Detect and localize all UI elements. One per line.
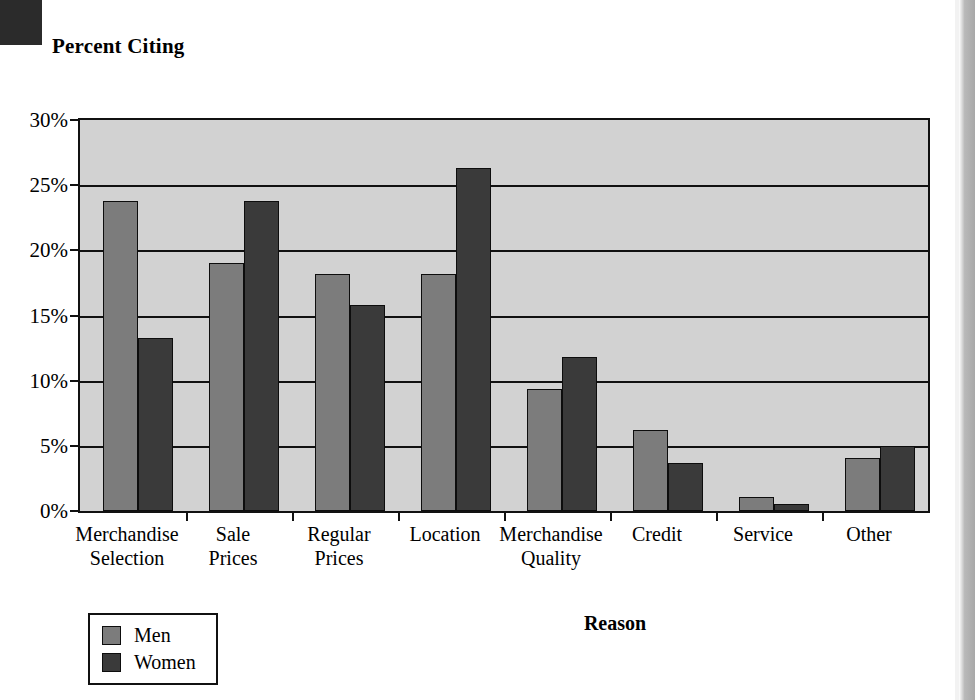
x-tick-label: RegularPrices	[307, 523, 370, 570]
x-tick-label: MerchandiseQuality	[499, 523, 602, 570]
y-tick-label: 20%	[30, 238, 69, 263]
y-tick-mark	[70, 510, 80, 512]
x-label-line: Prices	[209, 547, 258, 571]
bar-men-6	[633, 430, 668, 511]
bar-men-7	[739, 497, 774, 511]
x-tick-label: Location	[409, 523, 480, 547]
bars-layer	[80, 120, 928, 511]
y-tick-mark	[70, 315, 80, 317]
bar-women-3	[350, 305, 385, 511]
chart-legend: MenWomen	[88, 613, 218, 685]
x-tick-label: MerchandiseSelection	[75, 523, 178, 570]
x-tick-mark	[292, 511, 294, 521]
bar-men-3	[315, 274, 350, 511]
legend-swatch-icon	[102, 653, 121, 672]
x-label-line: Quality	[499, 547, 602, 571]
y-tick-mark	[70, 119, 80, 121]
x-tick-mark	[610, 511, 612, 521]
y-tick-mark	[70, 380, 80, 382]
bar-women-8	[880, 446, 915, 511]
legend-label: Men	[134, 624, 171, 647]
x-label-line: Service	[733, 523, 793, 547]
legend-item-men: Men	[102, 622, 196, 649]
plot-area: 0%5%10%15%20%25%30% MerchandiseSelection…	[78, 118, 930, 513]
x-tick-label: Other	[846, 523, 892, 547]
x-tick-label: Service	[733, 523, 793, 547]
x-tick-mark	[716, 511, 718, 521]
bar-men-4	[421, 274, 456, 511]
y-tick-label: 15%	[30, 303, 69, 328]
legend-item-women: Women	[102, 649, 196, 676]
y-tick-label: 25%	[30, 173, 69, 198]
x-tick-mark	[398, 511, 400, 521]
x-tick-mark	[186, 511, 188, 521]
y-tick-mark	[70, 249, 80, 251]
y-tick-label: 5%	[40, 433, 68, 458]
bar-men-5	[527, 389, 562, 512]
bar-men-8	[845, 458, 880, 511]
y-tick-label: 10%	[30, 368, 69, 393]
x-tick-label: SalePrices	[209, 523, 258, 570]
x-label-line: Merchandise	[75, 523, 178, 547]
x-label-line: Other	[846, 523, 892, 547]
x-tick-mark	[822, 511, 824, 521]
page-edge-shadow	[959, 0, 975, 700]
bar-women-1	[138, 338, 173, 511]
y-tick-mark	[70, 445, 80, 447]
x-label-line: Regular	[307, 523, 370, 547]
bar-women-4	[456, 168, 491, 511]
bar-men-2	[209, 263, 244, 511]
bar-women-2	[244, 201, 279, 511]
legend-label: Women	[134, 651, 196, 674]
x-label-line: Prices	[307, 547, 370, 571]
y-tick-mark	[70, 184, 80, 186]
bar-women-5	[562, 357, 597, 511]
x-label-line: Location	[409, 523, 480, 547]
x-tick-label: Credit	[632, 523, 682, 547]
y-tick-label: 30%	[30, 108, 69, 133]
legend-swatch-icon	[102, 626, 121, 645]
x-label-line: Merchandise	[499, 523, 602, 547]
bar-women-6	[668, 463, 703, 511]
y-tick-label: 0%	[40, 499, 68, 524]
x-label-line: Sale	[209, 523, 258, 547]
bar-men-1	[103, 201, 138, 511]
y-axis-title: Percent Citing	[52, 34, 184, 59]
x-label-line: Selection	[75, 547, 178, 571]
x-axis-title: Reason	[584, 612, 646, 635]
x-label-line: Credit	[632, 523, 682, 547]
x-tick-mark	[504, 511, 506, 521]
page-corner-mark	[0, 0, 42, 45]
bar-women-7	[774, 504, 809, 511]
